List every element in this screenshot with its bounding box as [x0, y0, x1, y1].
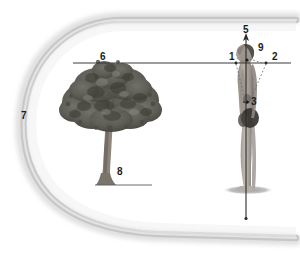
diagram-figure: 1 2 3 5 6 7 8 9	[0, 0, 300, 256]
geometry-layer	[0, 0, 300, 256]
callout-label-6: 6	[100, 52, 106, 62]
callout-label-5: 5	[243, 25, 249, 35]
callout-label-7: 7	[21, 111, 27, 121]
callout-label-8: 8	[117, 167, 123, 177]
head-point	[245, 58, 248, 61]
callout-label-9: 9	[258, 43, 264, 53]
callout-label-3: 3	[251, 97, 257, 107]
callout-label-2: 2	[272, 52, 278, 62]
left-horizon-point	[235, 62, 238, 65]
right-horizon-point	[265, 62, 268, 65]
callout-label-1: 1	[229, 52, 235, 62]
vertical-axis-end-dot	[244, 217, 247, 220]
